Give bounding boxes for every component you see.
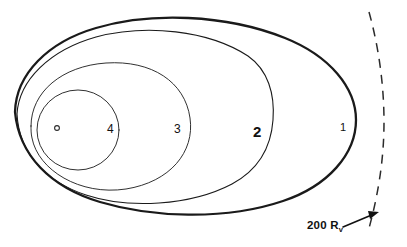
scale-unit: R <box>330 219 339 231</box>
scale-annotation: 200 Rv <box>307 219 343 234</box>
contour-label-4: 4 <box>107 123 114 135</box>
contour-diagram-figure: 1 2 3 4 200 Rv <box>0 0 407 247</box>
central-body-marker <box>55 126 60 131</box>
contour-label-1: 1 <box>340 122 346 133</box>
contour-path-2 <box>17 30 273 203</box>
scale-arrow-head <box>368 211 379 219</box>
scale-value: 200 <box>307 219 327 231</box>
contour-label-2: 2 <box>253 124 261 139</box>
contour-label-3: 3 <box>174 123 181 135</box>
dashed-boundary-arc <box>368 12 384 232</box>
contour-path-1 <box>15 18 356 215</box>
scale-subscript: v <box>339 225 343 234</box>
